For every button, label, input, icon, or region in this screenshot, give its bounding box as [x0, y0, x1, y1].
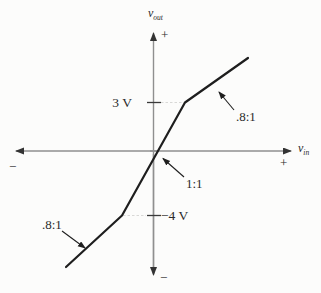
tick-label-minus4v: −4 V: [161, 208, 188, 223]
slope-lower-arrow: [62, 231, 85, 248]
x-axis-minus-sign: −: [9, 159, 16, 174]
x-axis-plus-sign: +: [280, 155, 287, 170]
slope-upper-label: .8:1: [236, 109, 256, 124]
slope-upper-arrow: [219, 92, 234, 110]
x-axis-label-sub: in: [303, 148, 309, 157]
tick-label-3v: 3 V: [112, 95, 132, 110]
plot-canvas: vout + − vin + − 3 V −4 V .8:1 1:1 .8:1: [0, 0, 321, 293]
transfer-curve: [66, 58, 248, 267]
transfer-characteristic-figure: vout + − vin + − 3 V −4 V .8:1 1:1 .8:1: [0, 0, 321, 293]
y-axis-plus-sign: +: [161, 27, 168, 42]
x-axis-label: vin: [298, 141, 309, 157]
y-axis-label: vout: [148, 6, 164, 22]
y-axis-minus-sign: −: [160, 270, 167, 285]
slope-lower-label: .8:1: [42, 217, 62, 232]
slope-middle-label: 1:1: [186, 176, 203, 191]
y-axis-label-sub: out: [153, 13, 164, 22]
slope-middle-arrow: [163, 159, 184, 178]
